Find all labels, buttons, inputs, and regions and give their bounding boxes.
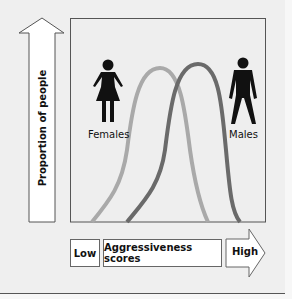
y-axis-label: Proportion of people xyxy=(37,70,48,187)
x-axis-low-box: Low xyxy=(70,239,100,267)
x-axis-low-label: Low xyxy=(74,248,96,259)
males-label: Males xyxy=(229,129,258,140)
females-label: Females xyxy=(88,129,129,140)
x-axis-high-label: High xyxy=(232,246,258,257)
x-axis-title: Aggressiveness scores xyxy=(104,242,221,264)
x-axis-title-box: Aggressiveness scores xyxy=(103,239,222,267)
bottom-divider xyxy=(0,293,285,294)
